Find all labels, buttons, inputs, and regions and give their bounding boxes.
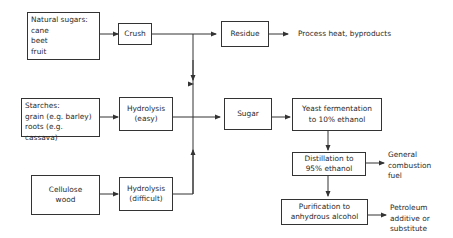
distillation-box: Distillation to 95% ethanol <box>292 152 366 176</box>
hydrolysis-easy-box: Hydrolysis (easy) <box>119 97 173 131</box>
sugar-box: Sugar <box>224 98 272 130</box>
distillation-line1: Distillation to <box>304 154 353 165</box>
natural-sugars-item: fruit <box>31 47 96 58</box>
general-fuel-line: General <box>388 150 431 161</box>
starches-box: Starches: grain (e.g. barley) roots (e.g… <box>21 98 100 137</box>
yeast-fermentation-box: Yeast fermentation to 10% ethanol <box>292 98 382 131</box>
starches-title: Starches: <box>25 101 96 112</box>
natural-sugars-item: cane <box>31 26 96 37</box>
yeast-line1: Yeast fermentation <box>302 104 372 115</box>
hydrolysis-difficult-line2: (difficult) <box>127 194 165 205</box>
residue-label: Residue <box>230 29 259 40</box>
purification-line1: Purification to <box>291 202 359 213</box>
residue-box: Residue <box>221 21 269 47</box>
yeast-line2: to 10% ethanol <box>302 115 372 126</box>
cellulose-line2: wood <box>49 195 82 206</box>
sugar-label: Sugar <box>237 109 259 120</box>
starches-item: roots (e.g. cassava) <box>25 122 96 143</box>
general-fuel-output: General combustion fuel <box>388 150 431 182</box>
crush-label: Crush <box>124 29 145 40</box>
cellulose-box: Cellulose wood <box>31 175 100 215</box>
purification-box: Purification to anhydrous alcohol <box>281 199 368 225</box>
distillation-line2: 95% ethanol <box>304 164 353 175</box>
general-fuel-line: fuel <box>388 171 431 182</box>
general-fuel-line: combustion <box>388 161 431 172</box>
petroleum-line: substitute <box>390 224 430 235</box>
hydrolysis-difficult-box: Hydrolysis (difficult) <box>119 177 173 211</box>
hydrolysis-difficult-line1: Hydrolysis <box>127 184 165 195</box>
petroleum-line: additive or <box>390 214 430 225</box>
hydrolysis-easy-line1: Hydrolysis <box>127 104 165 115</box>
purification-line2: anhydrous alcohol <box>291 212 359 223</box>
natural-sugars-item: beet <box>31 36 96 47</box>
process-heat-output: Process heat, byproducts <box>298 29 391 40</box>
petroleum-line: Petroleum <box>390 203 430 214</box>
cellulose-line1: Cellulose <box>49 185 82 196</box>
natural-sugars-box: Natural sugars: cane beet fruit <box>27 12 100 60</box>
hydrolysis-easy-line2: (easy) <box>127 114 165 125</box>
natural-sugars-title: Natural sugars: <box>31 15 96 26</box>
starches-item: grain (e.g. barley) <box>25 112 96 123</box>
crush-box: Crush <box>118 23 152 45</box>
petroleum-output: Petroleum additive or substitute <box>390 203 430 235</box>
